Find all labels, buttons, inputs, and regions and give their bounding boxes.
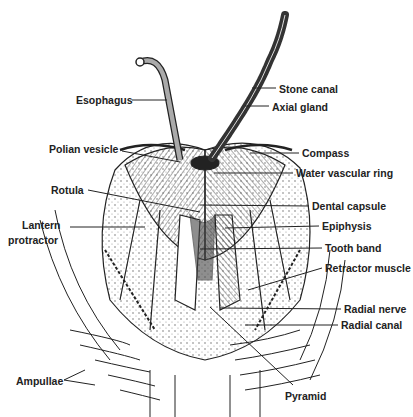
label-ampullae: Ampullae — [16, 375, 63, 387]
label-rotula: Rotula — [51, 184, 84, 196]
lantern-body — [102, 143, 310, 360]
label-dental-capsule: Dental capsule — [312, 200, 386, 212]
label-stone-canal: Stone canal — [279, 83, 338, 95]
label-radial-nerve: Radial nerve — [344, 303, 406, 315]
label-epiphysis: Epiphysis — [322, 220, 372, 232]
label-protractor: protractor — [8, 234, 58, 246]
label-axial-gland: Axial gland — [272, 101, 328, 113]
lantern-diagram: Esophagus Polian vesicle Rotula Lantern … — [0, 0, 413, 417]
axial-gland — [212, 15, 285, 158]
label-retractor-muscle: Retractor muscle — [325, 262, 411, 274]
label-tooth-band: Tooth band — [325, 242, 381, 254]
label-compass: Compass — [302, 147, 349, 159]
label-pyramid: Pyramid — [285, 390, 326, 402]
label-polian-vesicle: Polian vesicle — [49, 143, 118, 155]
label-lantern: Lantern — [22, 219, 61, 231]
label-radial-canal: Radial canal — [341, 319, 402, 331]
label-esophagus: Esophagus — [76, 94, 133, 106]
label-water-vascular-ring: Water vascular ring — [296, 167, 393, 179]
